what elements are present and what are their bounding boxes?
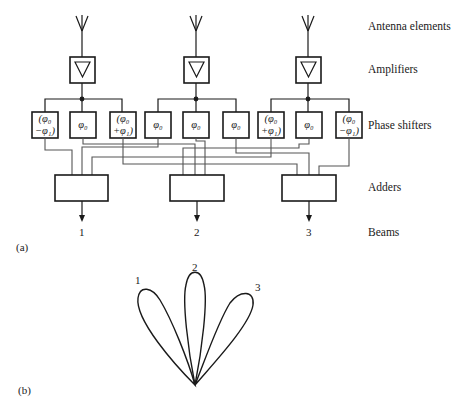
phase-shifter-8: φ₀: [296, 119, 322, 131]
phase-label: φ₀: [183, 119, 209, 131]
lobe-label-3: 3: [255, 281, 261, 293]
phase-label-bottom: −φ₁): [32, 125, 58, 137]
part-a-label: (a): [16, 241, 28, 253]
adder-3: [282, 175, 336, 201]
phase-label-bottom: −φ₁): [336, 125, 362, 137]
phase-label: φ₀: [70, 119, 96, 131]
label-phase-shifters: Phase shifters: [368, 119, 432, 131]
lobe-label-1: 1: [135, 274, 141, 286]
beam-number-2: 2: [194, 226, 200, 238]
amplifier-icon: [70, 57, 95, 83]
beamforming-diagram: [0, 0, 455, 412]
phase-label-top: (φ₀: [336, 113, 362, 125]
label-antenna-elements: Antenna elements: [368, 20, 451, 32]
phase-label: φ₀: [223, 119, 249, 131]
phase-shifter-4: φ₀: [145, 119, 171, 131]
phase-shifter-2: φ₀: [70, 119, 96, 131]
part-b-label: (b): [18, 384, 31, 396]
phase-label-top: (φ₀: [110, 113, 136, 125]
phase-shifter-9: (φ₀ −φ₁): [336, 113, 362, 137]
phase-label: φ₀: [296, 119, 322, 131]
phase-label-bottom: +φ₁): [258, 125, 284, 137]
beam-number-3: 3: [306, 226, 312, 238]
phase-label-top: (φ₀: [258, 113, 284, 125]
amplifier-icon: [296, 57, 321, 83]
lobe-3: [195, 293, 253, 385]
lobe-label-2: 2: [192, 261, 198, 273]
lobe-1: [138, 289, 195, 385]
label-adders: Adders: [368, 181, 401, 193]
phase-label: φ₀: [145, 119, 171, 131]
label-amplifiers: Amplifiers: [368, 63, 418, 75]
phase-shifter-5: φ₀: [183, 119, 209, 131]
phase-shifter-3: (φ₀ +φ₁): [110, 113, 136, 137]
adder-1: [55, 175, 108, 201]
phase-shifter-7: (φ₀ +φ₁): [258, 113, 284, 137]
antenna-icon: [302, 15, 314, 57]
amplifier-icon: [184, 57, 209, 83]
antenna-icon: [76, 15, 88, 57]
phase-shifter-1: (φ₀ −φ₁): [32, 113, 58, 137]
adder-2: [170, 175, 224, 201]
phase-label-top: (φ₀: [32, 113, 58, 125]
arrow-icon: [79, 215, 312, 222]
beam-number-1: 1: [79, 226, 85, 238]
phase-shifter-6: φ₀: [223, 119, 249, 131]
antenna-icon: [190, 15, 202, 57]
label-beams: Beams: [368, 226, 399, 238]
interconnect-wires: [45, 138, 349, 175]
phase-label-bottom: +φ₁): [110, 125, 136, 137]
beam-pattern: [138, 272, 253, 385]
